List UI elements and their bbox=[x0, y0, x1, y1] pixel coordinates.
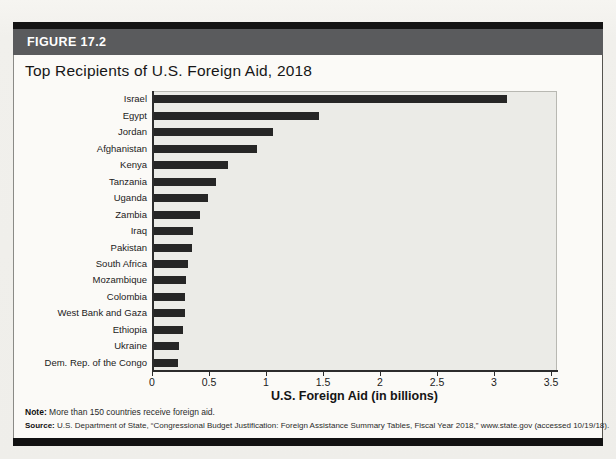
figure-bottom-rule bbox=[13, 438, 603, 446]
bar-ethiopia bbox=[154, 326, 183, 334]
bar-zambia bbox=[154, 211, 200, 219]
tick-label: 3.5 bbox=[536, 376, 566, 388]
figure-content: Top Recipients of U.S. Foreign Aid, 2018… bbox=[13, 55, 603, 438]
figure-note: Note: More than 150 countries receive fo… bbox=[25, 407, 215, 417]
category-label: Mozambique bbox=[16, 275, 147, 285]
bar-kenya bbox=[154, 161, 228, 169]
x-axis-title: U.S. Foreign Aid (in billions) bbox=[152, 389, 557, 403]
source-label: Source: bbox=[25, 421, 55, 430]
category-label: Afghanistan bbox=[16, 144, 147, 154]
figure-label: FIGURE 17.2 bbox=[27, 35, 106, 49]
figure-top-rule bbox=[13, 22, 603, 29]
category-label: Pakistan bbox=[16, 243, 147, 253]
note-text: More than 150 countries receive foreign … bbox=[49, 407, 215, 417]
tick-label: 1.5 bbox=[308, 376, 338, 388]
category-label: Dem. Rep. of the Congo bbox=[16, 358, 147, 368]
tick-label: 1 bbox=[251, 376, 281, 388]
bar-chart: IsraelEgyptJordanAfghanistanKenyaTanzani… bbox=[14, 55, 602, 438]
category-label: West Bank and Gaza bbox=[16, 308, 147, 318]
tick-label: 0 bbox=[137, 376, 167, 388]
bar-uganda bbox=[154, 194, 208, 202]
tick-label: 2 bbox=[365, 376, 395, 388]
category-label: Israel bbox=[16, 94, 147, 104]
bar-south-africa bbox=[154, 260, 188, 268]
bar-israel bbox=[154, 95, 507, 103]
category-label: Ukraine bbox=[16, 341, 147, 351]
bar-jordan bbox=[154, 128, 273, 136]
figure-box: FIGURE 17.2 Top Recipients of U.S. Forei… bbox=[13, 22, 603, 446]
book-page: FIGURE 17.2 Top Recipients of U.S. Forei… bbox=[0, 0, 616, 459]
figure-header-bar: FIGURE 17.2 bbox=[13, 29, 603, 55]
category-label: Jordan bbox=[16, 127, 147, 137]
bar-dem-rep-of-the-congo bbox=[154, 359, 178, 367]
bar-pakistan bbox=[154, 244, 192, 252]
y-axis-line bbox=[152, 91, 154, 372]
tick-label: 3 bbox=[479, 376, 509, 388]
bar-tanzania bbox=[154, 178, 216, 186]
figure-source: Source: U.S. Department of State, “Congr… bbox=[25, 421, 609, 430]
category-label: Zambia bbox=[16, 210, 147, 220]
category-label: Iraq bbox=[16, 226, 147, 236]
category-label: Colombia bbox=[16, 292, 147, 302]
tick-label: 0.5 bbox=[194, 376, 224, 388]
bar-iraq bbox=[154, 227, 193, 235]
note-label: Note: bbox=[25, 407, 47, 417]
bar-mozambique bbox=[154, 276, 186, 284]
category-label: Uganda bbox=[16, 193, 147, 203]
tick-label: 2.5 bbox=[422, 376, 452, 388]
bar-ukraine bbox=[154, 342, 179, 350]
category-label: Tanzania bbox=[16, 177, 147, 187]
category-label: Ethiopia bbox=[16, 325, 147, 335]
x-axis-line bbox=[152, 370, 558, 372]
bar-west-bank-and-gaza bbox=[154, 309, 185, 317]
bar-colombia bbox=[154, 293, 185, 301]
category-label: Egypt bbox=[16, 111, 147, 121]
bar-afghanistan bbox=[154, 145, 257, 153]
source-text: U.S. Department of State, “Congressional… bbox=[57, 421, 609, 430]
category-label: Kenya bbox=[16, 160, 147, 170]
bar-egypt bbox=[154, 112, 319, 120]
category-label: South Africa bbox=[16, 259, 147, 269]
